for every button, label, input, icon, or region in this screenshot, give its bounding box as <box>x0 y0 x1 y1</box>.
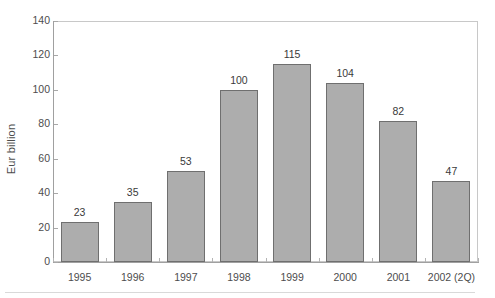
x-tick-mark <box>106 258 107 262</box>
y-tick-label: 0 <box>44 255 50 267</box>
y-tick-label: 20 <box>38 221 50 233</box>
y-tick-label: 40 <box>38 186 50 198</box>
bar[interactable] <box>273 64 311 262</box>
x-category-label: 1998 <box>227 271 250 283</box>
y-tick-mark <box>54 55 58 56</box>
bar-value-label: 23 <box>74 206 86 218</box>
x-tick-mark <box>53 258 54 262</box>
bar-group <box>167 21 205 262</box>
x-tick-mark <box>266 258 267 262</box>
bar[interactable] <box>326 83 364 262</box>
y-tick-label: 80 <box>38 117 50 129</box>
bar[interactable] <box>379 121 417 262</box>
x-category-label: 2001 <box>387 271 410 283</box>
y-tick-mark <box>54 90 58 91</box>
bar[interactable] <box>167 171 205 262</box>
bar-group <box>379 21 417 262</box>
x-category-label: 2002 (2Q) <box>428 271 475 283</box>
x-category-label: 1999 <box>280 271 303 283</box>
bar[interactable] <box>61 222 99 262</box>
bar-group <box>326 21 364 262</box>
bar-value-label: 47 <box>446 165 458 177</box>
x-category-label: 1996 <box>121 271 144 283</box>
bar-value-label: 53 <box>180 155 192 167</box>
y-tick-mark <box>54 159 58 160</box>
x-tick-mark <box>425 258 426 262</box>
bar[interactable] <box>432 181 470 262</box>
y-tick-label: 60 <box>38 152 50 164</box>
y-tick-label: 100 <box>32 83 50 95</box>
bar-value-label: 115 <box>284 48 301 60</box>
bar-chart: Eur billion 020406080100120140 199519961… <box>0 0 495 298</box>
y-tick-mark <box>54 228 58 229</box>
bar[interactable] <box>114 202 152 262</box>
y-tick-mark <box>54 193 58 194</box>
bar-value-label: 35 <box>127 186 139 198</box>
bar-group <box>220 21 258 262</box>
bar-value-label: 82 <box>392 105 404 117</box>
x-category-label: 2000 <box>334 271 357 283</box>
y-tick-label: 120 <box>32 48 50 60</box>
bar-value-label: 104 <box>336 67 354 79</box>
x-tick-mark <box>159 258 160 262</box>
bar-value-label: 100 <box>230 74 248 86</box>
x-tick-mark <box>478 258 479 262</box>
bottom-divider <box>5 292 475 293</box>
x-category-label: 1995 <box>68 271 91 283</box>
x-category-label: 1997 <box>174 271 197 283</box>
bar-group <box>114 21 152 262</box>
bar[interactable] <box>220 90 258 262</box>
x-tick-mark <box>212 258 213 262</box>
x-tick-mark <box>319 258 320 262</box>
y-tick-label: 140 <box>32 14 50 26</box>
bar-group <box>432 21 470 262</box>
y-axis-title: Eur billion <box>0 0 22 298</box>
y-tick-mark <box>54 21 58 22</box>
x-tick-mark <box>372 258 373 262</box>
x-axis-line <box>53 262 479 263</box>
y-tick-mark <box>54 262 58 263</box>
y-tick-mark <box>54 124 58 125</box>
bar-group <box>61 21 99 262</box>
